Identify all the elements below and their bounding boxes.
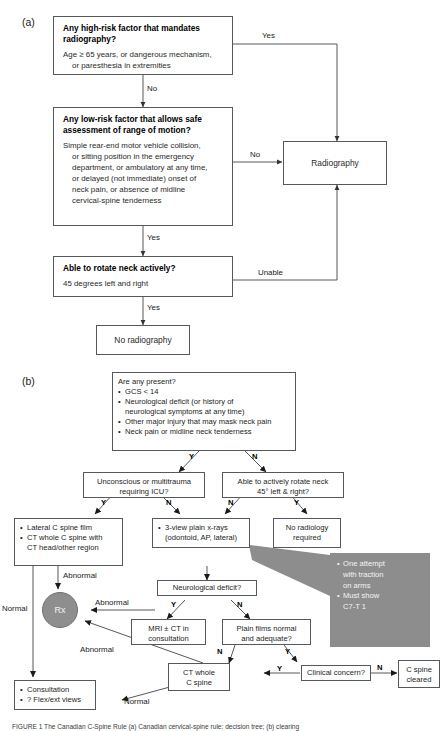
lateral-item-list: Lateral C spine film CT whole C spine wi… (20, 523, 117, 553)
callout-traction-note: One attempt with traction on arms Must s… (330, 553, 430, 647)
node-no-radiology-required: No radiology required (273, 518, 341, 548)
list-item-line-2: (odontoid, AP, lateral) (165, 533, 244, 543)
node-title: Any low-risk factor that allows safe ass… (63, 114, 224, 136)
node-line-2: consultation (137, 634, 200, 644)
node-title: Any high-risk factor that mandates radio… (63, 23, 224, 45)
node-able-to-actively-rotate-neck: Able to actively rotate neck 45° left & … (222, 472, 344, 498)
list-item: One attempt with traction on arms (337, 559, 423, 591)
node-body: Simple rear-end motor vehicle collision,… (63, 141, 224, 206)
body-line-4: or delayed (not immediate) onset of (63, 174, 224, 185)
edge-label-low-risk-yes: Yes (147, 233, 160, 242)
node-title: Are any present? (118, 377, 290, 387)
figure-canvas: (a) Any high-risk factor that mandates r… (0, 0, 446, 731)
panel-label-a: (a) (22, 16, 35, 28)
node-are-any-present: Are any present? GCS < 14 Neurological d… (112, 372, 296, 451)
edge-label-ct-normal: Normal (124, 697, 149, 706)
node-lateral-c-spine-film: Lateral C spine film CT whole C spine wi… (14, 518, 123, 566)
body-line-1: Simple rear-end motor vehicle collision, (63, 141, 201, 150)
body-line-2: or paresthesia in extremities (63, 61, 224, 72)
node-neurological-deficit: Neurological deficit? (157, 580, 257, 596)
edge-label-mri-abnormal: Abnormal (95, 598, 129, 607)
node-plain-films-normal: Plain films normal and adequate? (222, 619, 311, 645)
node-line-1: C spine (404, 665, 434, 675)
node-line-1: MRI ± CT in (137, 624, 200, 634)
node-any-high-risk-factor: Any high-risk factor that mandates radio… (53, 16, 233, 75)
node-line-2: C spine (174, 678, 224, 688)
list-item: Consultation (20, 685, 90, 695)
node-label: Rx (55, 605, 66, 615)
node-line-2: cleared (404, 675, 434, 685)
edge-label-high-risk-no: No (147, 84, 157, 93)
node-title: Able to rotate neck actively? (63, 263, 224, 274)
list-item: Must show C7-T 1 (337, 591, 423, 613)
callout-pointer (249, 545, 330, 596)
node-line-1: CT whole (174, 668, 224, 678)
node-line-2: and adequate? (228, 634, 305, 644)
node-line-2: required (279, 533, 335, 543)
node-line-1: Able to actively rotate neck (228, 477, 338, 487)
node-rx: Rx (42, 592, 78, 628)
node-consultation: Consultation ? Flex/ext views (14, 680, 96, 710)
list-item: CT whole C spine with CT head/other regi… (20, 533, 117, 553)
node-body: Age ≥ 65 years, or dangerous mechanism, … (63, 50, 224, 72)
edge-label-unconscious-y: Y (101, 498, 106, 507)
node-any-low-risk-factor: Any low-risk factor that allows safe ass… (53, 107, 233, 226)
list-item: ? Flex/ext views (20, 695, 90, 705)
edge-label-rotate-yes: Yes (147, 303, 160, 312)
edge-label-present-y: Y (189, 452, 194, 461)
list-item-line-1: 3-view plain x-rays (165, 523, 228, 532)
edge-label-neuro-n: N (237, 600, 242, 609)
node-mri-plus-ct: MRI ± CT in consultation (131, 619, 206, 645)
edge-label-neuro-y: Y (171, 600, 176, 609)
node-line-2: 45° left & right? (228, 487, 338, 497)
list-item-line-2: neurological symptoms at any time) (125, 407, 290, 417)
list-item-line-2: C7-T 1 (343, 602, 366, 611)
node-radiography: Radiography (283, 141, 387, 185)
list-item: 3-view plain x-rays (odontoid, AP, later… (158, 523, 244, 543)
node-unconscious-or-multitrauma: Unconscious or multitrauma requiring ICU… (83, 472, 205, 498)
node-ct-whole-c-spine: CT whole C spine (168, 663, 230, 691)
figure-caption: FIGURE 1 The Canadian C-Spine Rule (a) C… (12, 723, 299, 731)
panel-label-b: (b) (22, 375, 35, 387)
list-item: Neurological deficit (or history of neur… (118, 397, 290, 417)
list-item-line-1: Must show (343, 591, 379, 600)
edge-label-plain-y: Y (285, 647, 290, 656)
node-body: 45 degrees left and right (63, 279, 224, 290)
list-item-line-3: on arms (343, 581, 370, 590)
edge-label-plain-n: N (217, 647, 222, 656)
list-item-line-1: Neurological deficit (or history of (125, 397, 233, 406)
list-item-line-2: with traction (343, 570, 384, 579)
edge-label-present-n: N (252, 452, 257, 461)
three-view-item-list: 3-view plain x-rays (odontoid, AP, later… (158, 523, 244, 543)
node-label: No radiography (114, 335, 171, 345)
edge-label-rotate45-n: N (228, 498, 233, 507)
edge-label-rotate45-y: Y (294, 498, 299, 507)
body-line-6: cervical-spine tenderness (63, 196, 224, 207)
list-item: Lateral C spine film (20, 523, 117, 533)
list-item: Other major injury that may mask neck pa… (118, 417, 290, 427)
edge-label-lateral-normal: Normal (2, 604, 27, 613)
callout-item-list: One attempt with traction on arms Must s… (337, 559, 423, 613)
node-3-view-plain-xrays: 3-view plain x-rays (odontoid, AP, later… (152, 518, 250, 548)
edge-label-concern-n: N (377, 663, 382, 672)
node-clinical-concern: Clinical concern? (301, 665, 371, 681)
node-label: Clinical concern? (307, 668, 365, 678)
edge-label-concern-y: Y (277, 664, 282, 673)
consultation-item-list: Consultation ? Flex/ext views (20, 685, 90, 705)
node-able-to-rotate-neck: Able to rotate neck actively? 45 degrees… (53, 256, 233, 297)
node-label: Radiography (311, 158, 359, 168)
edge-label-low-risk-no: No (250, 150, 260, 159)
present-item-list: GCS < 14 Neurological deficit (or histor… (118, 387, 290, 437)
body-line-2: or sitting position in the emergency (63, 152, 224, 163)
list-item-line-1: CT whole C spine with (27, 533, 102, 542)
node-line-1: Plain films normal (228, 624, 305, 634)
node-no-radiography: No radiography (96, 325, 190, 355)
body-line-1: Age ≥ 65 years, or dangerous mechanism, (63, 50, 212, 59)
edge-label-high-risk-yes: Yes (262, 31, 275, 40)
edge-label-rotate-unable: Unable (258, 268, 283, 277)
list-item-line-2: CT head/other region (27, 543, 117, 553)
node-line-2: requiring ICU? (89, 487, 199, 497)
edge-label-ct-abnormal: Abnormal (80, 645, 114, 654)
edge-label-unconscious-n: N (166, 498, 171, 507)
list-item: GCS < 14 (118, 387, 290, 397)
